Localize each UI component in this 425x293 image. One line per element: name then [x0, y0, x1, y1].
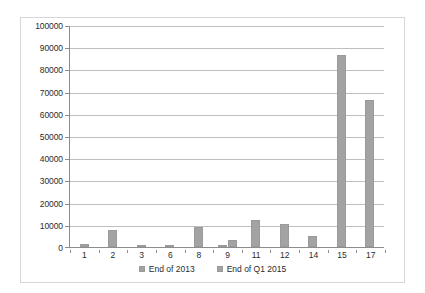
- bars-layer: [70, 26, 384, 247]
- x-axis-tickmark: [70, 250, 71, 253]
- y-axis-tickmark: [65, 115, 69, 116]
- x-axis-tick-label: 14: [299, 250, 328, 260]
- legend-item-label: End of Q1 2015: [227, 264, 287, 274]
- y-axis-tickmark: [65, 137, 69, 138]
- x-axis-tickmark: [99, 250, 100, 253]
- y-axis-tick-label: 10000: [40, 221, 63, 231]
- x-axis-tickmark: [385, 250, 386, 253]
- x-axis-tick-label: 1: [70, 250, 99, 260]
- x-axis-tick-label: 17: [356, 250, 385, 260]
- y-axis-tick-label: 30000: [40, 176, 63, 186]
- bar: [194, 227, 203, 247]
- bar: [308, 236, 317, 247]
- y-axis-tick-label: 70000: [40, 88, 63, 98]
- y-axis-tick-label: 80000: [40, 65, 63, 75]
- x-axis-tick-labels: 1236891112141517: [70, 250, 385, 260]
- bar: [165, 245, 174, 247]
- x-axis-tick-label: 11: [242, 250, 271, 260]
- bar: [137, 245, 146, 247]
- bar-group: [213, 26, 242, 247]
- chart-container: 0100002000030000400005000060000700008000…: [20, 17, 405, 283]
- x-axis-tick-label: 12: [270, 250, 299, 260]
- bar-group: [156, 26, 185, 247]
- x-axis-tickmark: [242, 250, 243, 253]
- bar-group: [184, 26, 213, 247]
- plot-area: [69, 26, 384, 248]
- bar: [337, 55, 346, 247]
- y-axis-tick-label: 50000: [40, 132, 63, 142]
- x-axis-tickmark: [127, 250, 128, 253]
- y-axis-tickmark: [65, 204, 69, 205]
- x-axis-tickmark: [156, 250, 157, 253]
- x-axis-tickmark: [356, 250, 357, 253]
- bar: [80, 244, 89, 247]
- x-axis-tickmark: [270, 250, 271, 253]
- bar-group: [241, 26, 270, 247]
- y-axis-tickmark: [65, 226, 69, 227]
- x-axis-tick-label: 3: [127, 250, 156, 260]
- bar: [108, 230, 117, 247]
- bar: [228, 240, 237, 247]
- x-axis-tick-label: 2: [99, 250, 128, 260]
- bar: [218, 245, 227, 247]
- bar: [365, 100, 374, 247]
- y-axis-tickmark: [65, 181, 69, 182]
- legend-item-label: End of 2013: [149, 264, 195, 274]
- x-axis-tickmark: [213, 250, 214, 253]
- y-axis-tickmark: [65, 93, 69, 94]
- y-axis-tick-label: 60000: [40, 110, 63, 120]
- x-axis-tick-label: 15: [328, 250, 357, 260]
- bar-group: [70, 26, 99, 247]
- bar-group: [327, 26, 356, 247]
- bar-group: [99, 26, 128, 247]
- x-axis-tickmark: [299, 250, 300, 253]
- y-axis-tick-labels: 0100002000030000400005000060000700008000…: [21, 26, 67, 248]
- x-axis-tick-label: 8: [185, 250, 214, 260]
- legend-swatch-icon: [217, 266, 223, 272]
- bar-group: [355, 26, 384, 247]
- legend-item[interactable]: End of 2013: [139, 264, 195, 274]
- y-axis-tickmark: [65, 247, 69, 248]
- y-axis-tickmark: [65, 70, 69, 71]
- y-axis-tick-label: 90000: [40, 43, 63, 53]
- bar-group: [270, 26, 299, 247]
- legend-swatch-icon: [139, 266, 145, 272]
- bar: [280, 224, 289, 247]
- bar-group: [127, 26, 156, 247]
- x-axis-tickmark: [328, 250, 329, 253]
- y-axis-tick-label: 100000: [35, 21, 63, 31]
- bar: [251, 220, 260, 247]
- y-axis-tick-label: 40000: [40, 154, 63, 164]
- y-axis-tick-label: 20000: [40, 199, 63, 209]
- y-axis-tick-label: 0: [58, 243, 63, 253]
- y-axis-tickmark: [65, 48, 69, 49]
- x-axis-tick-label: 6: [156, 250, 185, 260]
- y-axis-tickmark: [65, 26, 69, 27]
- legend-item[interactable]: End of Q1 2015: [217, 264, 287, 274]
- plot-wrapper: 0100002000030000400005000060000700008000…: [21, 18, 404, 282]
- y-axis-tickmark: [65, 159, 69, 160]
- x-axis-tickmark: [185, 250, 186, 253]
- x-axis-tick-label: 9: [213, 250, 242, 260]
- bar-group: [298, 26, 327, 247]
- x-axis-line: [69, 247, 384, 248]
- chart-legend: End of 2013End of Q1 2015: [21, 264, 404, 274]
